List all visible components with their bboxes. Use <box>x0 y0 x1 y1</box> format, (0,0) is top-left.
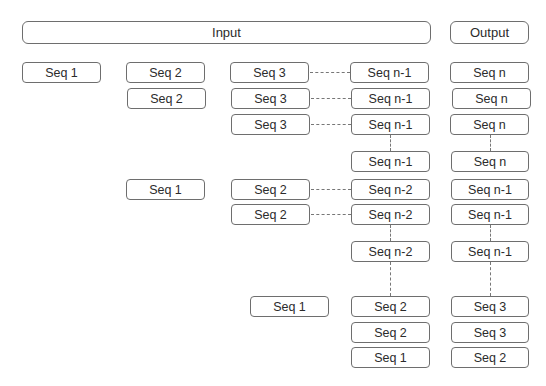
vconnector-seq2 <box>390 262 391 296</box>
sequence-box: Seq n-1 <box>350 62 429 83</box>
sequence-box: Seq n <box>450 114 529 135</box>
sequence-box: Seq 3 <box>451 322 529 343</box>
connector-row-2 <box>311 98 351 99</box>
sequence-box: Seq 3 <box>451 296 529 317</box>
output-header: Output <box>450 21 529 44</box>
connector-row-1 <box>310 72 350 73</box>
sequence-box: Seq n-1 <box>351 88 430 109</box>
sequence-box: Seq n-1 <box>351 114 430 135</box>
sequence-box: Seq 1 <box>351 347 430 368</box>
vconnector-seq3 <box>490 262 491 296</box>
sequence-box: Seq 2 <box>351 322 430 343</box>
sequence-box: Seq n <box>451 151 529 172</box>
sequence-box: Seq n-1 <box>451 179 529 200</box>
sequence-box: Seq n <box>452 88 531 109</box>
connector-row-3 <box>311 124 351 125</box>
sequence-box: Seq 2 <box>451 347 529 368</box>
vconnector-n1b <box>490 225 491 241</box>
sequence-box: Seq 3 <box>231 88 310 109</box>
sequence-box: Seq n-2 <box>351 179 430 200</box>
sequence-box: Seq n-2 <box>351 241 430 262</box>
sequence-box: Seq 2 <box>126 62 205 83</box>
vconnector-n <box>490 135 491 151</box>
sequence-box: Seq n-1 <box>351 151 430 172</box>
sequence-box: Seq n-1 <box>451 241 529 262</box>
vconnector-n1 <box>390 135 391 151</box>
input-header: Input <box>22 21 431 44</box>
sequence-box: Seq n-1 <box>451 204 529 225</box>
sequence-box: Seq 2 <box>127 88 206 109</box>
sequence-box: Seq 3 <box>230 62 309 83</box>
connector-row-6 <box>311 214 351 215</box>
sequence-box: Seq 2 <box>351 296 430 317</box>
sequence-box: Seq 2 <box>231 179 310 200</box>
sequence-box: Seq 1 <box>126 179 205 200</box>
sequence-box: Seq 2 <box>231 204 310 225</box>
sequence-box: Seq 3 <box>231 114 310 135</box>
sequence-box: Seq 1 <box>250 296 329 317</box>
sequence-box: Seq n-2 <box>351 204 430 225</box>
connector-row-5 <box>311 189 351 190</box>
vconnector-n2 <box>390 225 391 241</box>
sequence-box: Seq 1 <box>22 62 101 83</box>
sequence-box: Seq n <box>450 62 529 83</box>
